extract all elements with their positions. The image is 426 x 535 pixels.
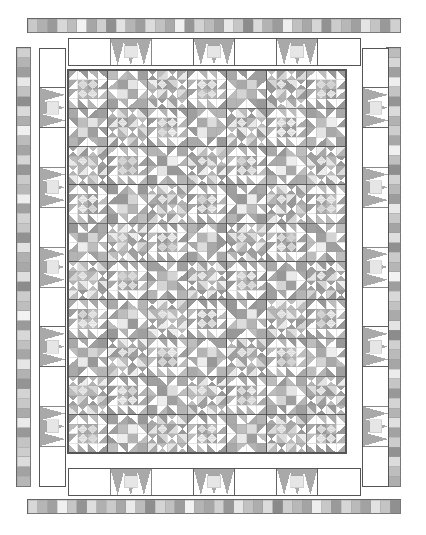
half-star-center bbox=[47, 261, 59, 274]
solid-patch bbox=[336, 108, 346, 118]
solid-patch bbox=[68, 223, 78, 233]
solid-patch bbox=[247, 434, 257, 444]
solid-patch bbox=[138, 214, 148, 224]
outer-checker-right-strip bbox=[387, 48, 401, 487]
solid-patch bbox=[277, 386, 287, 396]
solid-patch bbox=[88, 357, 98, 367]
solid-patch bbox=[277, 166, 287, 176]
solid-patch bbox=[277, 271, 287, 281]
checker-cell bbox=[224, 500, 234, 513]
checker-cell bbox=[243, 19, 253, 32]
checker-cell bbox=[87, 19, 97, 32]
solid-patch bbox=[207, 118, 217, 128]
solid-patch bbox=[68, 108, 78, 118]
checker-cell bbox=[387, 311, 400, 321]
solid-patch bbox=[78, 118, 88, 128]
checker-cell bbox=[371, 19, 381, 32]
checker-cell bbox=[155, 500, 165, 513]
checker-cell bbox=[380, 500, 390, 513]
plain-border-unit bbox=[318, 468, 360, 495]
checker-cell bbox=[136, 19, 146, 32]
checker-cell bbox=[106, 500, 116, 513]
solid-patch bbox=[167, 166, 177, 176]
solid-patch bbox=[316, 348, 326, 358]
checker-cell bbox=[145, 500, 155, 513]
checker-cell bbox=[17, 155, 30, 165]
checker-cell bbox=[387, 447, 400, 457]
solid-patch bbox=[336, 252, 346, 262]
solid-patch bbox=[128, 424, 138, 434]
solid-patch bbox=[286, 281, 296, 291]
quilt-center-field bbox=[68, 70, 346, 453]
checker-cell bbox=[38, 500, 48, 513]
checker-cell bbox=[17, 369, 30, 379]
solid-patch bbox=[128, 434, 138, 444]
checker-cell bbox=[17, 204, 30, 214]
solid-patch bbox=[227, 300, 237, 310]
quilt-diagram-canvas bbox=[0, 0, 426, 535]
checker-cell bbox=[17, 77, 30, 87]
solid-patch bbox=[138, 99, 148, 109]
checker-cell bbox=[387, 223, 400, 233]
solid-patch bbox=[88, 118, 98, 128]
solid-patch bbox=[247, 80, 257, 90]
solid-patch bbox=[286, 271, 296, 281]
checker-cell bbox=[48, 500, 58, 513]
checker-cell bbox=[387, 418, 400, 428]
solid-patch bbox=[177, 262, 187, 272]
solid-patch bbox=[187, 137, 197, 147]
solid-patch bbox=[326, 242, 336, 252]
solid-patch bbox=[118, 194, 128, 204]
solid-patch bbox=[296, 262, 306, 272]
solid-patch bbox=[118, 204, 128, 214]
solid-patch bbox=[247, 204, 257, 214]
checker-cell bbox=[38, 19, 48, 32]
checker-cell bbox=[312, 500, 322, 513]
solid-patch bbox=[78, 233, 88, 243]
half-star-center bbox=[124, 46, 137, 58]
checker-cell bbox=[204, 500, 214, 513]
checker-cell bbox=[17, 467, 30, 477]
checker-cell bbox=[387, 262, 400, 272]
checker-cell bbox=[17, 272, 30, 282]
solid-patch bbox=[187, 108, 197, 118]
checker-cell bbox=[387, 213, 400, 223]
solid-patch bbox=[167, 271, 177, 281]
checker-cell bbox=[387, 350, 400, 360]
solid-patch bbox=[247, 319, 257, 329]
plain-border-unit bbox=[68, 468, 110, 495]
checker-cell bbox=[234, 19, 244, 32]
checker-cell bbox=[351, 500, 361, 513]
solid-patch bbox=[68, 137, 78, 147]
solid-patch bbox=[157, 386, 167, 396]
solid-patch bbox=[128, 194, 138, 204]
checker-cell bbox=[57, 500, 67, 513]
solid-patch bbox=[68, 367, 78, 377]
checker-cell bbox=[387, 457, 400, 467]
solid-patch bbox=[118, 319, 128, 329]
checker-cell bbox=[17, 252, 30, 262]
half-star-center bbox=[47, 420, 59, 433]
checker-cell bbox=[387, 87, 400, 97]
solid-patch bbox=[118, 89, 128, 99]
checker-cell bbox=[17, 67, 30, 77]
solid-patch bbox=[306, 137, 316, 147]
checker-cell bbox=[17, 223, 30, 233]
checker-cell bbox=[387, 77, 400, 87]
checker-cell bbox=[116, 19, 126, 32]
checker-cell bbox=[322, 500, 332, 513]
solid-patch bbox=[118, 424, 128, 434]
checker-cell bbox=[390, 500, 400, 513]
solid-patch bbox=[98, 223, 108, 233]
checker-cell bbox=[194, 19, 204, 32]
solid-patch bbox=[187, 223, 197, 233]
solid-patch bbox=[336, 338, 346, 348]
solid-patch bbox=[68, 338, 78, 348]
checker-cell bbox=[253, 500, 263, 513]
solid-patch bbox=[147, 147, 157, 157]
solid-patch bbox=[197, 127, 207, 137]
solid-patch bbox=[306, 338, 316, 348]
half-star-center bbox=[47, 340, 59, 353]
checker-cell bbox=[214, 19, 224, 32]
solid-patch bbox=[267, 175, 277, 185]
